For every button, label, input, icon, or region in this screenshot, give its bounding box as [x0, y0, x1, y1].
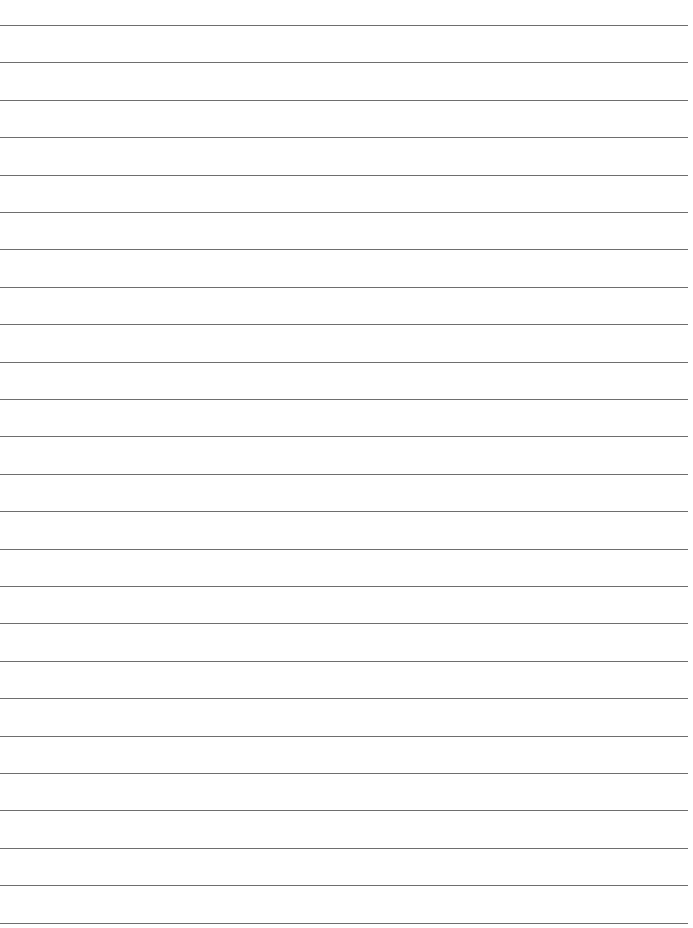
ruled-line	[0, 62, 688, 63]
ruled-line	[0, 586, 688, 587]
ruled-line	[0, 287, 688, 288]
ruled-line	[0, 436, 688, 437]
ruled-line	[0, 661, 688, 662]
ruled-line	[0, 399, 688, 400]
ruled-line	[0, 623, 688, 624]
ruled-line	[0, 362, 688, 363]
ruled-line	[0, 773, 688, 774]
ruled-line	[0, 698, 688, 699]
ruled-line	[0, 511, 688, 512]
ruled-line	[0, 137, 688, 138]
ruled-line	[0, 25, 688, 26]
ruled-line	[0, 923, 688, 924]
ruled-line	[0, 885, 688, 886]
ruled-line	[0, 175, 688, 176]
ruled-line	[0, 549, 688, 550]
lined-paper-page	[0, 0, 693, 928]
ruled-line	[0, 212, 688, 213]
ruled-line	[0, 100, 688, 101]
ruled-line	[0, 324, 688, 325]
ruled-line	[0, 736, 688, 737]
ruled-line	[0, 249, 688, 250]
ruled-line	[0, 474, 688, 475]
ruled-line	[0, 810, 688, 811]
ruled-line	[0, 848, 688, 849]
